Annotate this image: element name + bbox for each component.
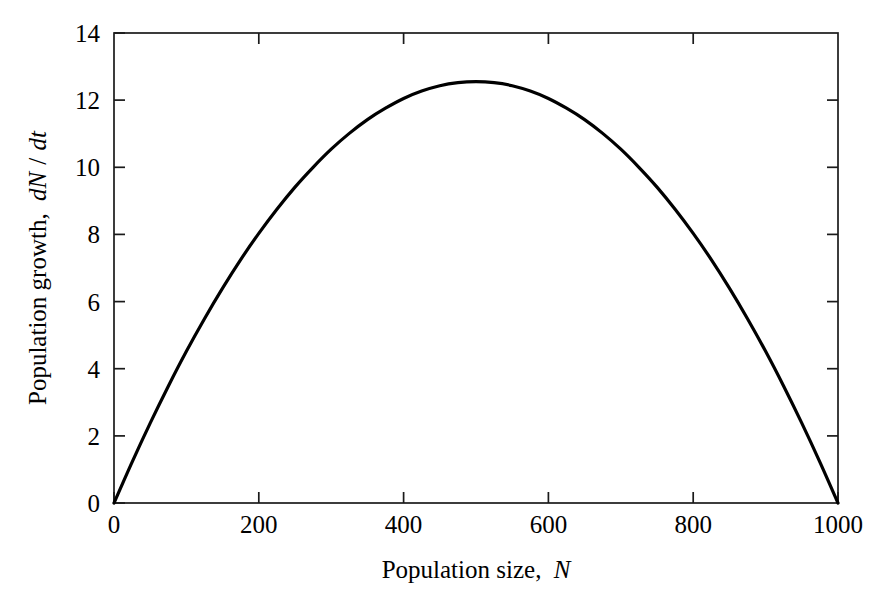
y-tick-label-0: 0	[88, 490, 101, 517]
x-tick-label-1000: 1000	[813, 511, 863, 538]
x-axis-ticks	[114, 492, 838, 503]
y-axis-ticks	[114, 33, 125, 503]
x-tick-labels: 0 200 400 600 800 1000	[108, 511, 863, 538]
x-tick-label-800: 800	[674, 511, 712, 538]
x-tick-label-200: 200	[240, 511, 278, 538]
y-axis-title: Population growth, dN / dt	[24, 130, 51, 405]
right-axis-ticks	[827, 100, 838, 436]
y-tick-label-4: 4	[88, 356, 101, 383]
x-axis-title-symbol: N	[553, 556, 572, 583]
y-tick-label-8: 8	[88, 221, 101, 248]
x-axis-title: Population size, N	[382, 556, 572, 583]
logistic-growth-curve	[114, 82, 838, 503]
y-axis-title-slash: /	[24, 158, 51, 165]
y-axis-title-numerator: dN	[24, 171, 51, 202]
x-tick-label-0: 0	[108, 511, 121, 538]
y-tick-label-6: 6	[88, 289, 101, 316]
figure-container: 0 200 400 600 800 1000 0 2 4 6 8 10 12 1…	[0, 0, 884, 593]
y-axis-title-denominator: dt	[24, 130, 51, 151]
logistic-growth-chart: 0 200 400 600 800 1000 0 2 4 6 8 10 12 1…	[0, 0, 884, 593]
x-tick-label-400: 400	[385, 511, 423, 538]
y-axis-title-text: Population growth,	[24, 213, 51, 405]
x-tick-label-600: 600	[530, 511, 568, 538]
y-tick-label-12: 12	[75, 87, 100, 114]
y-tick-label-2: 2	[88, 423, 101, 450]
y-tick-label-10: 10	[75, 154, 100, 181]
plot-frame	[114, 33, 838, 503]
x-axis-title-text: Population size,	[382, 556, 542, 583]
y-tick-label-14: 14	[75, 20, 101, 47]
y-tick-labels: 0 2 4 6 8 10 12 14	[75, 20, 101, 517]
top-axis-ticks	[259, 33, 693, 44]
